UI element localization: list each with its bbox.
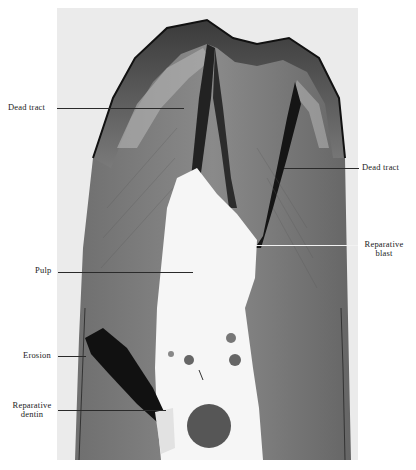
label-reparative-dentin: Reparative dentin <box>9 401 55 419</box>
label-dead-tract-right: Dead tract <box>362 163 399 172</box>
label-dead-tract-left: Dead tract <box>8 103 45 112</box>
leader-line-dead-tract-left <box>57 108 184 109</box>
caption-fragment <box>0 462 416 470</box>
leader-line-reparative-dentin <box>58 410 166 411</box>
figure: Dead tract Pulp Erosion Reparative denti… <box>0 0 416 470</box>
label-pulp: Pulp <box>35 266 51 275</box>
label-reparative-blast-line2: blast <box>375 248 392 258</box>
label-reparative-dentin-line2: dentin <box>21 409 43 419</box>
tooth-section-photograph <box>57 8 358 460</box>
leader-line-reparative-blast <box>254 245 358 246</box>
leader-line-dead-tract-right <box>284 168 359 169</box>
leader-line-pulp <box>58 272 193 273</box>
leader-line-erosion <box>58 356 86 357</box>
label-reparative-blast: Reparative blast <box>360 240 408 258</box>
label-erosion: Erosion <box>23 351 51 360</box>
